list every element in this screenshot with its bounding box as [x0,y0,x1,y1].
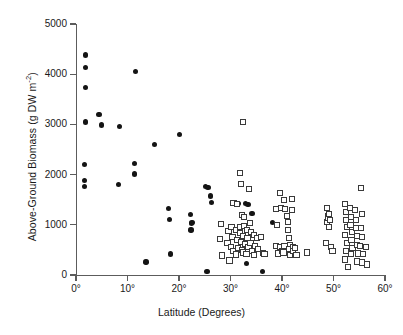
y-axis-tick-label: 5000 [7,19,67,29]
data-point-circle [143,259,148,264]
data-point-circle [188,227,193,232]
data-point-square [285,219,291,225]
y-axis-tick [70,74,76,75]
x-axis-tick-label: 10° [108,284,148,294]
data-point-square [327,217,333,223]
x-axis-tick-label: 20° [159,284,199,294]
data-point-square [363,244,369,250]
data-point-square [293,252,299,258]
data-point-square [285,227,291,233]
data-point-square [329,248,335,254]
data-point-circle [83,85,88,90]
x-axis-tick [127,275,128,281]
data-point-circle [208,193,213,198]
data-point-square [219,252,225,258]
data-point-square [217,236,223,242]
data-point-square [353,217,359,223]
data-point-square [360,251,366,257]
data-point-circle [96,112,101,117]
data-point-square [348,251,354,257]
x-axis-tick [178,275,179,281]
data-point-square [359,234,365,240]
data-point-square [251,252,257,258]
data-point-circle [205,185,210,190]
data-point-circle [117,124,122,129]
data-point-square [292,245,298,251]
data-point-square [282,206,288,212]
x-axis-tick-label: 60° [365,284,403,294]
data-point-circle [82,162,87,167]
data-point-circle [83,52,88,57]
data-point-circle [166,206,171,211]
data-point-square [359,211,365,217]
data-point-square [258,234,264,240]
data-point-square [281,197,287,203]
data-point-circle [204,269,209,274]
data-point-square [345,264,351,270]
data-point-square [247,220,253,226]
data-point-square [289,196,295,202]
x-axis-tick-label: 40° [262,284,302,294]
data-point-square [358,225,364,231]
data-point-circle [249,211,254,216]
data-point-square [274,222,280,228]
x-axis-tick-label: 30° [211,284,251,294]
data-point-square [240,119,246,125]
data-point-square [289,207,295,213]
data-point-circle [82,184,87,189]
y-axis-tick-label: 1000 [7,220,67,230]
data-point-square [286,235,292,241]
data-point-square [277,190,283,196]
data-point-circle [188,212,193,217]
data-point-circle [83,65,88,70]
data-point-circle [260,269,265,274]
data-point-square [358,185,364,191]
y-axis-tick [70,23,76,24]
data-point-square [326,224,332,230]
data-point-circle [99,122,104,127]
data-point-square [342,256,348,262]
data-point-square [226,257,232,263]
data-point-circle [152,142,157,147]
x-axis-tick [281,275,282,281]
y-axis-tick-label: 4000 [7,69,67,79]
data-point-square [237,170,243,176]
y-axis-tick [70,124,76,125]
data-point-square [364,261,370,267]
scatter-chart-figure: Above-Ground Biomass (g DW m-2) Latitude… [0,0,403,335]
data-point-circle [82,178,87,183]
y-axis-tick [70,224,76,225]
x-axis-tick-label: 50° [314,284,354,294]
data-point-square [218,221,224,227]
data-point-circle [83,119,88,124]
y-axis-tick [70,174,76,175]
data-point-circle [209,200,214,205]
data-point-square [238,181,244,187]
x-axis-tick [230,275,231,281]
data-point-circle [132,171,137,176]
x-axis-tick-label: 0° [56,284,96,294]
data-point-circle [244,261,249,266]
x-axis-tick [384,275,385,281]
data-point-circle [168,251,173,256]
x-axis-title: Latitude (Degrees) [0,306,403,318]
data-point-circle [245,202,250,207]
y-axis-tick-label: 0 [7,270,67,280]
data-point-square [234,201,240,207]
data-point-square [304,249,310,255]
x-axis-tick [75,275,76,281]
data-point-circle [189,221,194,226]
data-point-circle [116,182,121,187]
y-axis-tick-label: 3000 [7,119,67,129]
data-point-square [246,186,252,192]
y-axis-tick-label: 2000 [7,170,67,180]
data-point-circle [133,69,138,74]
data-point-square [352,207,358,213]
data-point-circle [132,161,137,166]
data-point-circle [177,132,182,137]
data-point-square [261,251,267,257]
data-point-square [342,232,348,238]
x-axis-tick [333,275,334,281]
data-point-circle [167,217,172,222]
